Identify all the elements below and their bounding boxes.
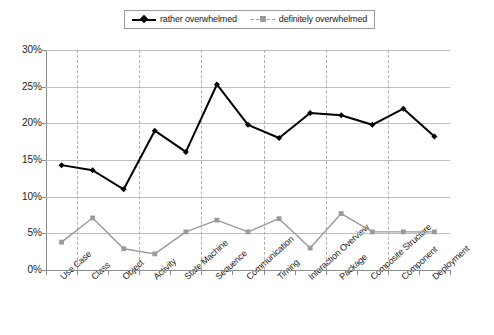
series-line: [62, 84, 435, 189]
legend-marker-diamond-icon: [132, 15, 156, 24]
plot-area: [46, 50, 450, 270]
legend-entry-rather-overwhelmed: rather overwhelmed: [132, 15, 237, 24]
series-layer: [46, 50, 450, 270]
data-point-timing: [277, 216, 282, 221]
data-point-sequence: [215, 218, 220, 223]
data-point-component: [401, 229, 406, 234]
y-tick-label-30%: 30%: [2, 45, 42, 55]
y-tick-label-15%: 15%: [2, 155, 42, 165]
chart-legend: rather overwhelmed definitely overwhelme…: [124, 10, 375, 29]
legend-marker-square-icon: [251, 15, 275, 24]
data-point-interaction-overview: [308, 246, 313, 251]
x-tick-mark: [450, 270, 451, 275]
y-tick-label-25%: 25%: [2, 82, 42, 92]
y-tick-label-10%: 10%: [2, 192, 42, 202]
gridline-0%: [46, 270, 450, 271]
data-point-use-case: [59, 240, 64, 245]
legend-label-definitely-overwhelmed: definitely overwhelmed: [279, 15, 367, 24]
data-point-communication: [246, 229, 251, 234]
data-point-class: [90, 216, 95, 221]
data-point-use-case: [59, 162, 65, 168]
data-point-activity: [152, 251, 157, 256]
legend-entry-definitely-overwhelmed: definitely overwhelmed: [251, 15, 367, 24]
legend-label-rather-overwhelmed: rather overwhelmed: [160, 15, 237, 24]
y-tick-label-0%: 0%: [2, 265, 42, 275]
data-point-state-machine: [183, 229, 188, 234]
y-tick-label-20%: 20%: [2, 118, 42, 128]
series-definitely-overwhelmed: [59, 211, 437, 256]
data-point-deployment: [432, 229, 437, 234]
data-point-package: [338, 112, 344, 118]
y-tick-label-5%: 5%: [2, 228, 42, 238]
data-point-package: [339, 211, 344, 216]
data-point-composite-structure: [370, 229, 375, 234]
series-rather-overwhelmed: [59, 81, 438, 192]
data-point-object: [121, 246, 126, 251]
